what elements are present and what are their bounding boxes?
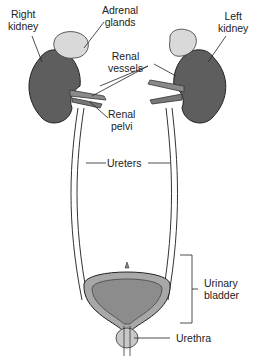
label-line: Adrenal (102, 4, 138, 16)
label-renal-pelvi: Renal pelvi (108, 108, 135, 132)
label-line: Renal (108, 108, 135, 120)
label-right-kidney: Right kidney (8, 8, 38, 32)
label-urinary-bladder: Urinary bladder (204, 277, 239, 301)
label-ureters: Ureters (107, 157, 141, 169)
label-line: Urinary (204, 277, 239, 289)
label-line: vessels (108, 62, 143, 74)
label-left-kidney: Left kidney (218, 10, 248, 34)
right-kidney (29, 32, 106, 123)
urinary-bladder (84, 262, 170, 356)
label-line: pelvi (108, 120, 135, 132)
label-line: Right (8, 8, 38, 20)
ureters (71, 108, 178, 300)
label-line: kidney (8, 20, 38, 32)
label-renal-vessels: Renal vessels (108, 50, 143, 74)
label-urethra: Urethra (176, 332, 211, 344)
label-adrenal-glands: Adrenal glands (102, 4, 138, 28)
label-line: glands (102, 16, 138, 28)
label-line: Renal (108, 50, 143, 62)
left-kidney (148, 29, 226, 123)
right-adrenal-gland (54, 32, 89, 59)
label-line: bladder (204, 289, 239, 301)
label-line: Left (218, 10, 248, 22)
label-line: kidney (218, 22, 248, 34)
